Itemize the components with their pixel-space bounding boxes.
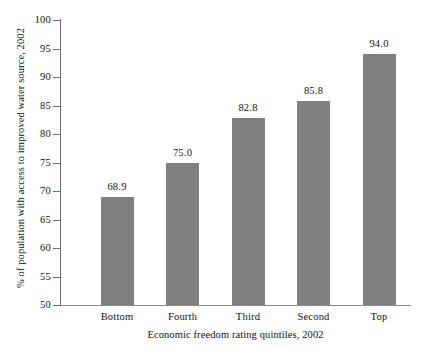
- y-tick-label: 60: [0, 242, 51, 253]
- bar: [297, 101, 330, 305]
- y-tick-label: 100: [0, 14, 51, 25]
- y-tick-mark: [53, 305, 60, 306]
- bar: [363, 54, 396, 305]
- y-tick-label-text: 80: [5, 128, 51, 139]
- y-tick-mark: [53, 163, 60, 164]
- bar-value-label: 75.0: [153, 147, 213, 159]
- bar-chart: % of population with access to improved …: [0, 0, 429, 351]
- y-tick-label: 80: [0, 128, 51, 139]
- x-axis-line: [60, 305, 411, 306]
- y-tick-label: 50: [0, 299, 51, 310]
- y-tick-label-text: 85: [5, 100, 51, 111]
- y-tick-label: 70: [0, 185, 51, 196]
- y-tick-mark: [53, 248, 60, 249]
- y-tick-label-text: 100: [5, 14, 51, 25]
- bar: [166, 163, 199, 306]
- bar-value-label: 94.0: [349, 38, 409, 50]
- y-tick-label: 75: [0, 157, 51, 168]
- y-tick-mark: [53, 20, 60, 21]
- y-tick-label: 90: [0, 71, 51, 82]
- y-tick-mark: [53, 77, 60, 78]
- y-tick-label-text: 55: [5, 271, 51, 282]
- bar-value-label: 68.9: [87, 181, 147, 193]
- bar-value-label: 82.8: [218, 102, 278, 114]
- y-tick-label-text: 70: [5, 185, 51, 196]
- y-tick-mark: [53, 191, 60, 192]
- y-tick-label-text: 95: [5, 43, 51, 54]
- bar: [232, 118, 265, 305]
- y-tick-label: 85: [0, 100, 51, 111]
- y-tick-mark: [53, 134, 60, 135]
- bar-value-label: 85.8: [284, 85, 344, 97]
- y-tick-mark: [53, 106, 60, 107]
- y-tick-label: 55: [0, 271, 51, 282]
- y-tick-mark: [53, 220, 60, 221]
- x-tick-label: Top: [339, 311, 419, 323]
- y-tick-label-text: 75: [5, 157, 51, 168]
- y-axis-line: [60, 19, 61, 306]
- y-tick-label-text: 65: [5, 214, 51, 225]
- y-tick-mark: [53, 277, 60, 278]
- y-tick-label-text: 60: [5, 242, 51, 253]
- y-tick-label-text: 50: [5, 299, 51, 310]
- bar: [101, 197, 134, 305]
- y-tick-label-text: 90: [5, 71, 51, 82]
- x-axis-title: Economic freedom rating quintiles, 2002: [60, 329, 411, 341]
- y-tick-label: 65: [0, 214, 51, 225]
- y-tick-mark: [53, 49, 60, 50]
- y-tick-label: 95: [0, 43, 51, 54]
